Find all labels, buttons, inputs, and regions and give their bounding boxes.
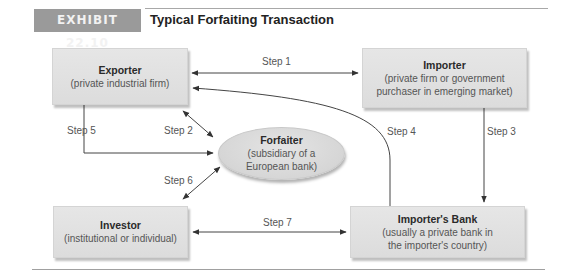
footer-rule [32,269,545,270]
node-title: Forfaiter [260,134,303,147]
node-subtitle-line1: (subsidiary of a [248,147,316,160]
node-title: Investor [100,219,141,232]
node-investor: Investor (institutional or individual) [53,206,188,258]
node-title: Importer [423,59,466,72]
node-subtitle-line2: the importer's country) [388,239,487,252]
node-subtitle: (institutional or individual) [64,232,177,245]
node-importer: Importer (private firm or government pur… [362,48,527,108]
node-importers-bank: Importer's Bank (usually a private bank … [350,206,525,258]
node-subtitle: (private industrial firm) [71,77,170,90]
node-forfaiter: Forfaiter (subsidiary of a European bank… [218,127,345,180]
header-rule [145,8,548,9]
step5-label: Step 5 [67,125,96,136]
node-title: Exporter [98,64,141,77]
exhibit-title: Typical Forfaiting Transaction [150,12,334,27]
step3-label: Step 3 [487,126,516,137]
node-subtitle-line2: purchaser in emerging market) [376,85,512,98]
node-title: Importer's Bank [398,213,478,226]
step4-label: Step 4 [387,126,416,137]
exhibit-label: EXHIBIT 22.10 [34,9,141,32]
step1-label: Step 1 [262,56,291,67]
edge-step5 [84,105,213,153]
node-subtitle-line1: (private firm or government [384,72,504,85]
node-exporter: Exporter (private industrial firm) [52,48,188,105]
node-subtitle-line1: (usually a private bank in [382,226,493,239]
step2-label: Step 2 [164,125,193,136]
step7-label: Step 7 [263,217,292,228]
step6-label: Step 6 [164,175,193,186]
node-subtitle-line2: European bank) [246,160,317,173]
